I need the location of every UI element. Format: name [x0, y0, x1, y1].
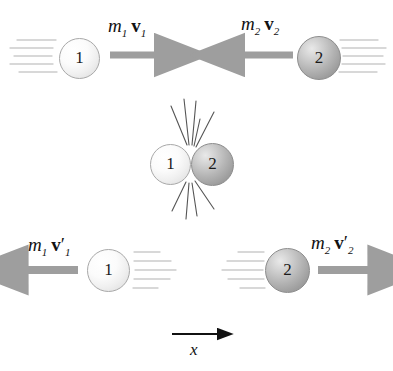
velocity-symbol-1-after: v: [51, 234, 61, 255]
ball-1-before-label: 1: [75, 49, 84, 66]
mass-subscript-1: 1: [122, 27, 128, 39]
velocity-subscript-1-after: 1: [65, 246, 71, 258]
ball-2-collision-label: 2: [208, 155, 217, 172]
mass-symbol-2-after: m: [311, 232, 325, 253]
ball-2-before: 2: [297, 36, 341, 80]
velocity-subscript-2: 2: [274, 25, 280, 37]
velocity-symbol-1: v: [131, 15, 141, 36]
ball-2-after: 2: [265, 248, 310, 293]
ball-1-after: 1: [87, 249, 130, 292]
ball-2-before-label: 2: [315, 49, 324, 66]
x-axis-label: x: [190, 340, 198, 360]
mass-symbol-1-after: m: [28, 234, 42, 255]
ball-1-collision: 1: [150, 144, 191, 185]
speed-lines-before-ball2: [339, 40, 386, 72]
momentum-label-after-ball2: m2v′2: [311, 233, 353, 256]
impact-lines-above: [171, 99, 214, 147]
mass-symbol-2: m: [241, 13, 255, 34]
ball-2-after-label: 2: [283, 261, 292, 278]
velocity-symbol-2: v: [264, 13, 274, 34]
mass-symbol-1: m: [108, 15, 122, 36]
momentum-label-before-ball2: m2v2: [241, 14, 279, 37]
ball-1-before: 1: [59, 38, 100, 79]
speed-lines-after-ball1: [133, 252, 176, 288]
mass-subscript-2: 2: [255, 25, 261, 37]
ball-1-collision-label: 1: [166, 155, 175, 172]
momentum-label-after-ball1: m1v′1: [28, 235, 70, 258]
mass-subscript-1-after: 1: [42, 246, 48, 258]
collision-diagram: 1 2 m1v1 m2v2 1 2 1 2 m1v′1 m2v′2 x: [0, 0, 393, 371]
mass-subscript-2-after: 2: [325, 244, 331, 256]
ball-1-after-label: 1: [104, 261, 113, 278]
speed-lines-before-ball1: [10, 40, 57, 72]
velocity-subscript-1: 1: [141, 27, 147, 39]
speed-lines-after-ball2: [222, 252, 265, 288]
ball-2-collision: 2: [191, 143, 234, 186]
impact-lines-below: [172, 181, 214, 219]
momentum-label-before-ball1: m1v1: [108, 16, 146, 39]
velocity-subscript-2-after: 2: [348, 244, 354, 256]
velocity-symbol-2-after: v: [334, 232, 344, 253]
